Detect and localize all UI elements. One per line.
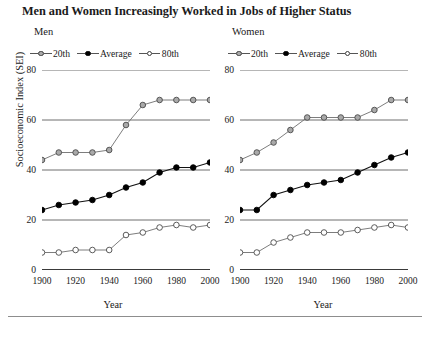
legend-line-icon: [139, 53, 147, 54]
legend-item-20th: 20th: [228, 48, 268, 59]
data-point-80th: [338, 230, 344, 236]
legend-line-icon: [337, 53, 345, 54]
legend-line-icon: [91, 53, 99, 54]
plot-svg-men: [42, 70, 210, 270]
data-point-20th: [405, 97, 408, 103]
data-point-average: [42, 207, 45, 213]
data-point-20th: [106, 147, 112, 153]
data-point-80th: [271, 240, 277, 246]
figure-title: Men and Women Increasingly Worked in Job…: [22, 4, 422, 19]
data-point-average: [106, 192, 112, 198]
legend-line-icon: [289, 53, 297, 54]
data-point-80th: [304, 230, 310, 236]
series-line-20th: [42, 100, 210, 160]
legend-item-20th: 20th: [30, 48, 70, 59]
data-point-80th: [190, 225, 196, 231]
data-point-20th: [123, 122, 129, 128]
y-tick-label: 40: [12, 164, 36, 175]
x-tick-label: 1960: [126, 276, 160, 286]
legend-line-icon: [152, 53, 160, 54]
data-point-80th: [90, 247, 96, 253]
data-point-average: [405, 150, 408, 156]
data-point-average: [355, 170, 361, 176]
panel-women: Women 20th Average 80th 0: [218, 26, 428, 316]
panel-title-men: Men: [34, 26, 53, 37]
legend-line-icon: [350, 53, 358, 54]
data-point-20th: [338, 115, 344, 121]
data-point-20th: [56, 150, 62, 156]
data-point-20th: [190, 97, 196, 103]
legend-item-average: Average: [275, 48, 330, 59]
data-point-20th: [388, 97, 394, 103]
x-tick-label: 1940: [92, 276, 126, 286]
data-point-20th: [174, 97, 180, 103]
data-point-20th: [140, 102, 146, 108]
y-tick-label: 60: [12, 114, 36, 125]
x-tick-label: 1920: [257, 276, 291, 286]
panel-title-women: Women: [232, 26, 264, 37]
data-point-80th: [42, 250, 45, 256]
legend-line-icon: [44, 53, 52, 54]
y-tick-label: 0: [12, 264, 36, 275]
y-tick-label: 40: [210, 164, 234, 175]
data-point-80th: [240, 250, 243, 256]
legend-item-80th: 80th: [139, 48, 179, 59]
data-point-20th: [73, 150, 79, 156]
data-point-average: [190, 165, 196, 171]
legend-item-80th: 80th: [337, 48, 377, 59]
y-tick-label: 0: [210, 264, 234, 275]
legend-label-average: Average: [298, 48, 330, 59]
x-tick-label: 1940: [290, 276, 324, 286]
x-tick-label: 1920: [59, 276, 93, 286]
x-tick-label: 1980: [357, 276, 391, 286]
data-point-average: [321, 180, 327, 186]
data-point-80th: [174, 222, 180, 228]
y-tick-label: 20: [210, 214, 234, 225]
data-point-average: [271, 192, 277, 198]
legend-line-icon: [228, 53, 236, 54]
legend-item-average: Average: [77, 48, 132, 59]
data-point-average: [140, 180, 146, 186]
plot-area-women: 020406080190019201940196019802000: [240, 70, 408, 270]
x-tick-label: 1900: [223, 276, 257, 286]
data-point-80th: [106, 247, 112, 253]
plot-area-men: 020406080190019201940196019802000: [42, 70, 210, 270]
data-point-80th: [56, 250, 62, 256]
data-point-20th: [355, 115, 361, 121]
data-point-80th: [254, 250, 260, 256]
data-point-20th: [157, 97, 163, 103]
data-point-average: [123, 185, 129, 191]
data-point-20th: [254, 150, 260, 156]
y-tick-label: 80: [210, 64, 234, 75]
legend-label-80th: 80th: [162, 48, 179, 59]
data-point-20th: [42, 157, 45, 163]
legend-line-icon: [242, 53, 250, 54]
y-tick-label: 80: [12, 64, 36, 75]
data-point-average: [254, 207, 260, 213]
x-tick-label: 1960: [324, 276, 358, 286]
data-point-average: [304, 182, 310, 188]
data-point-80th: [355, 227, 361, 233]
data-point-20th: [372, 107, 378, 113]
data-point-average: [90, 197, 96, 203]
data-point-average: [157, 170, 163, 176]
y-axis-title: Socioeconomic Index (SEI): [14, 35, 25, 185]
data-point-average: [288, 187, 294, 193]
data-point-20th: [288, 127, 294, 133]
data-point-average: [174, 165, 180, 171]
data-point-20th: [271, 140, 277, 146]
data-point-average: [73, 200, 79, 206]
x-tick-label: 1900: [25, 276, 59, 286]
x-axis-title-women: Year: [218, 299, 428, 310]
legend-label-20th: 20th: [53, 48, 70, 59]
series-line-80th: [240, 225, 408, 253]
legend-label-20th: 20th: [251, 48, 268, 59]
data-point-80th: [405, 225, 408, 231]
data-point-20th: [207, 97, 210, 103]
plot-svg-women: [240, 70, 408, 270]
data-point-average: [388, 155, 394, 161]
data-point-20th: [90, 150, 96, 156]
legend-label-average: Average: [100, 48, 132, 59]
data-point-80th: [388, 222, 394, 228]
x-axis-title-men: Year: [8, 299, 218, 310]
